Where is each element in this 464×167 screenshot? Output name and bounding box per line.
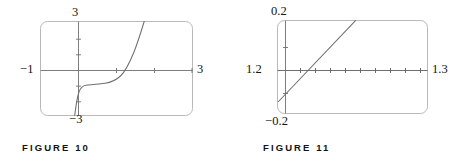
figure-11-right-axis-label: 1.3	[432, 63, 448, 76]
figure-11-left-axis-label: 1.2	[246, 63, 262, 76]
figure-10-bottom-axis-label: −3	[69, 113, 83, 126]
figure-10: 3 −1 3 −3 FIGURE 10	[0, 0, 232, 167]
figure-10-curve	[75, 22, 145, 116]
figure-10-caption: FIGURE 10	[22, 142, 90, 153]
figure-10-right-axis-label: 3	[197, 63, 203, 76]
figure-10-left-axis-label: −1	[20, 63, 34, 76]
figure-11-frame	[278, 21, 428, 114]
figure-11: 0.2 1.2 1.3 −0.2 FIGURE 11	[232, 0, 464, 167]
figure-11-line	[279, 21, 356, 102]
figure-10-top-axis-label: 3	[72, 6, 78, 19]
figure-11-bottom-axis-label: −0.2	[265, 115, 288, 128]
figure-11-caption: FIGURE 11	[263, 142, 330, 153]
figure-11-top-axis-label: 0.2	[271, 5, 287, 18]
